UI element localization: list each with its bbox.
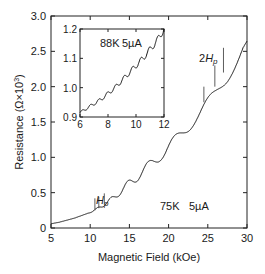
y-tick-label: 1.5: [31, 116, 46, 128]
x-tick-label: 30: [241, 232, 253, 244]
x-tick-label: 6: [77, 119, 83, 130]
y-tick-label: 1.2: [63, 24, 77, 35]
y-axis-label-text: Resistance (Ω×10: [13, 82, 25, 170]
x-tick-label: 25: [202, 232, 214, 244]
y-tick-label: 0: [40, 222, 46, 234]
y-tick-label: 2.5: [31, 45, 46, 57]
y-tick-label: 2.0: [31, 81, 46, 93]
annotation-temp: 75K: [160, 200, 180, 212]
y-tick-label: 1.0: [63, 83, 77, 94]
x-tick-label: 8: [105, 119, 111, 130]
x-tick-label: 5: [48, 232, 54, 244]
y-axis-label: Resistance (Ω×103): [13, 74, 25, 170]
annotation-2hp: 2Hp: [199, 52, 218, 66]
inset-annotation-current: 5µA: [122, 37, 142, 49]
y-tick-label: 3.0: [31, 10, 46, 22]
y-tick-label: 0.5: [31, 187, 46, 199]
y-axis-label-close: ): [13, 74, 25, 78]
x-axis-label: Magnetic Field (kOe): [98, 251, 200, 263]
x-tick-label: 20: [162, 232, 174, 244]
annotation-current: 5µA: [189, 200, 209, 212]
y-tick-label: 0.9: [63, 112, 77, 123]
chart: 5101520253000.51.01.52.02.53.0 Magnetic …: [0, 0, 265, 274]
x-tick-label: 10: [84, 232, 96, 244]
x-tick-label: 12: [158, 119, 170, 130]
y-tick-label: 1.0: [31, 151, 46, 163]
x-tick-label: 10: [130, 119, 142, 130]
inset-annotation-temp: 88K: [100, 37, 120, 49]
y-tick-label: 1.1: [63, 53, 77, 64]
x-tick-label: 15: [123, 232, 135, 244]
annotation-hp: Hp: [96, 194, 109, 208]
